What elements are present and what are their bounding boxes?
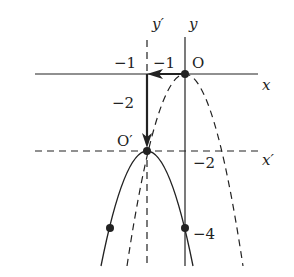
shift-down-label: −2	[112, 94, 134, 112]
point-origin-prime	[143, 147, 151, 155]
diagram-canvas: y′ y O x x′ O′ −1 −1 −2 −2 −4	[0, 0, 294, 277]
origin-label: O	[192, 54, 204, 72]
y-label: y	[188, 15, 198, 33]
tick-minus1-left: −1	[114, 54, 136, 72]
point-origin	[181, 70, 189, 78]
point-y-intercept	[181, 224, 189, 232]
tick-y-minus4: −4	[193, 225, 215, 243]
origin-prime-label: O′	[117, 132, 133, 150]
tick-y-minus2: −2	[193, 154, 215, 172]
x-prime-label: x′	[262, 151, 274, 169]
tick-minus1-right: −1	[153, 54, 175, 72]
point-symmetric	[106, 224, 114, 232]
x-label: x	[262, 76, 271, 94]
y-prime-label: y′	[151, 15, 164, 33]
parabola-diagram: y′ y O x x′ O′ −1 −1 −2 −2 −4	[0, 0, 294, 277]
